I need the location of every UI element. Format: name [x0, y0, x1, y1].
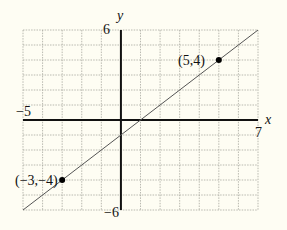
data-point: [59, 177, 65, 183]
y-min-tick-label: −6: [104, 205, 119, 220]
coordinate-plane-chart: y x 6 −6 −5 7 (−3,−4) (5,4): [0, 0, 287, 230]
y-max-tick-label: 6: [103, 22, 110, 37]
x-axis-label: x: [264, 112, 272, 127]
y-axis-label: y: [115, 8, 124, 23]
x-min-tick-label: −5: [16, 104, 31, 119]
x-max-tick-label: 7: [255, 125, 262, 140]
point-label-5-4: (5,4): [178, 53, 205, 69]
point-label-neg3-neg4: (−3,−4): [15, 173, 58, 189]
data-point: [216, 57, 222, 63]
